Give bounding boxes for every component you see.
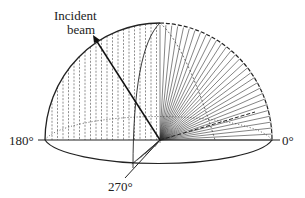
hemisphere-diagram: Incident beam 180° 0° 270° [0, 0, 305, 198]
vertical-hatch-lines [52, 23, 157, 140]
angle-270-label: 270° [108, 180, 133, 193]
meridian-arc [133, 23, 160, 168]
hemisphere-drawing [0, 0, 305, 198]
incident-label-line2: beam [67, 23, 95, 36]
angle-0-label: 0° [282, 134, 294, 147]
axis-270 [125, 140, 160, 178]
base-ellipse-front [45, 140, 272, 163]
angle-180-label: 180° [9, 134, 34, 147]
incident-label-line1: Incident [54, 9, 97, 22]
scatter-rays [132, 25, 273, 164]
dome-outline-right [160, 23, 272, 140]
incident-beam-line [96, 40, 160, 140]
dome-outline-left [45, 23, 160, 140]
